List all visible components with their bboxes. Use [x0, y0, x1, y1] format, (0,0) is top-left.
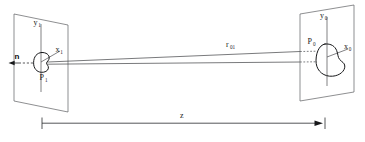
aperture-blob-p0: [316, 44, 345, 76]
label-y1-sub: 1: [38, 22, 41, 28]
label-p1: P 1: [40, 73, 49, 83]
z-dim-arrow-head-icon: [315, 120, 324, 126]
label-p1-sub: 1: [45, 77, 48, 83]
label-x0-sub: 0: [349, 46, 352, 52]
label-y1-base: y: [34, 18, 38, 27]
label-y0-base: y: [320, 11, 324, 20]
ray-upper: [48, 52, 301, 63]
label-x0: x 0: [344, 42, 352, 52]
label-n: n: [15, 52, 20, 61]
normal-arrow-head-icon: [9, 61, 15, 66]
label-x1: x 1: [56, 45, 64, 55]
diagram-canvas: y 1 x 1 P 1 n y 0 x 0 P 0: [0, 0, 365, 142]
label-x0-base: x: [344, 42, 348, 51]
label-p1-base: P: [40, 73, 45, 82]
ray-bundle-r01: [48, 52, 301, 65]
aperture-blob-p1: [34, 52, 50, 72]
label-y0-sub: 0: [325, 15, 328, 21]
label-y0: y 0: [320, 11, 328, 21]
diagram-svg: y 1 x 1 P 1 n y 0 x 0 P 0: [0, 0, 365, 142]
label-r01: r 01: [226, 40, 236, 50]
label-r01-base: r: [226, 40, 229, 49]
label-p0-sub: 0: [313, 41, 316, 47]
label-x1-base: x: [56, 45, 60, 54]
label-z: z: [180, 111, 184, 120]
label-p0-base: P: [308, 37, 313, 46]
label-x1-sub: 1: [60, 49, 63, 55]
label-r01-sub: 01: [230, 44, 236, 50]
ray-lower: [48, 62, 301, 64]
label-p0: P 0: [308, 37, 317, 47]
